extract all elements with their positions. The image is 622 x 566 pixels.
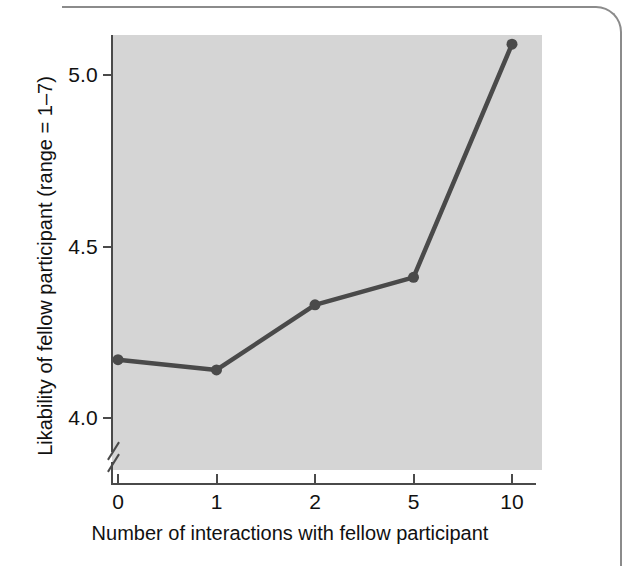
data-point-marker bbox=[113, 354, 124, 365]
x-axis-title: Number of interactions with fellow parti… bbox=[40, 521, 540, 545]
y-axis-title: Likability of fellow participant (range … bbox=[34, 31, 56, 501]
series-line bbox=[118, 44, 512, 370]
data-point-marker bbox=[507, 39, 518, 50]
data-point-marker bbox=[310, 299, 321, 310]
data-point-marker bbox=[211, 364, 222, 375]
data-point-marker bbox=[408, 272, 419, 283]
